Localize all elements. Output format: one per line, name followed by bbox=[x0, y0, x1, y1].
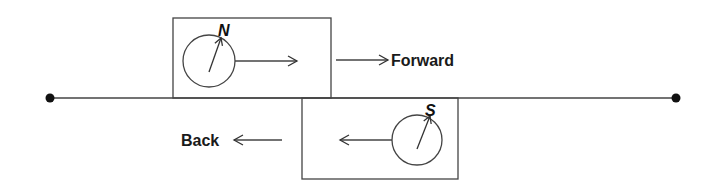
track-diagram: N Forward S Back bbox=[0, 0, 708, 190]
forward-unit: N bbox=[173, 18, 331, 98]
track-endpoint-left bbox=[46, 94, 55, 103]
north-label: N bbox=[218, 22, 230, 39]
track-endpoint-right bbox=[672, 94, 681, 103]
north-compass-icon bbox=[183, 35, 235, 87]
forward-indicator: Forward bbox=[336, 52, 454, 69]
south-label: S bbox=[425, 102, 436, 119]
south-needle-icon bbox=[417, 116, 430, 149]
south-compass-icon bbox=[392, 115, 442, 165]
forward-label: Forward bbox=[391, 52, 454, 69]
north-needle-icon bbox=[209, 38, 221, 72]
back-indicator: Back bbox=[181, 132, 282, 149]
backward-unit: S bbox=[302, 98, 458, 179]
back-label: Back bbox=[181, 132, 219, 149]
forward-unit-box bbox=[173, 18, 331, 98]
